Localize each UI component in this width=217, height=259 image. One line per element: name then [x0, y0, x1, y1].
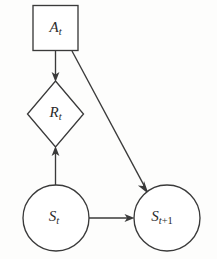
node-state-t-plus-1-label-subscript-op: +1 — [162, 215, 173, 226]
diagram-canvas: At Rt St St+1 — [0, 0, 217, 259]
node-reward-label-base: R — [48, 104, 58, 120]
edge-action-to-reward — [52, 51, 60, 82]
node-state-t-plus-1[interactable]: St+1 — [134, 185, 200, 251]
node-state-t[interactable]: St — [23, 185, 89, 251]
edge-state-to-next-state — [89, 214, 135, 222]
influence-diagram: At Rt St St+1 — [0, 0, 217, 259]
node-action[interactable]: At — [33, 6, 78, 51]
node-reward[interactable]: Rt — [28, 81, 84, 147]
edge-action-to-next-state — [72, 51, 149, 194]
edge-state-to-reward — [52, 146, 60, 186]
edge-action-to-next-state-line — [72, 51, 145, 188]
